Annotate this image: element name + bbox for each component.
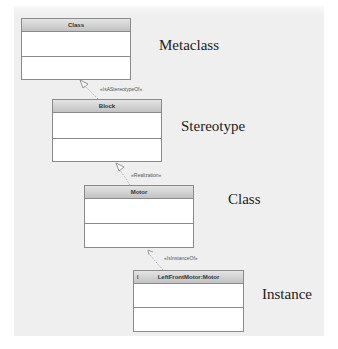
- hollow-arrowhead-icon: [116, 163, 124, 171]
- instance-name: LeftFrontMotor:Motor: [158, 274, 220, 280]
- attributes-compartment: [22, 32, 130, 57]
- uml-block-block[interactable]: Block: [52, 99, 162, 162]
- hollow-arrowhead-icon: [80, 80, 88, 88]
- uml-instance-left-front-motor[interactable]: I LeftFrontMotor:Motor: [133, 270, 244, 332]
- block-name: Class: [68, 22, 84, 28]
- operations-compartment: [134, 308, 243, 332]
- uml-block-motor[interactable]: Motor: [84, 185, 194, 248]
- attributes-compartment: [85, 199, 193, 224]
- operations-compartment: [85, 224, 193, 248]
- block-name: Block: [99, 103, 115, 109]
- connector-stereotype-of: [80, 80, 98, 99]
- attributes-compartment: [53, 113, 161, 139]
- operations-compartment: [22, 57, 130, 80]
- attributes-compartment: [134, 284, 243, 308]
- uml-block-class[interactable]: Class: [21, 18, 131, 80]
- level-label-metaclass: Metaclass: [159, 37, 219, 54]
- block-name: Motor: [131, 189, 148, 195]
- instance-kind-marker: I: [137, 271, 138, 283]
- open-arrowhead-icon: [148, 250, 153, 255]
- connector-realization: [116, 163, 130, 185]
- level-label-class: Class: [228, 191, 261, 208]
- operations-compartment: [53, 139, 161, 162]
- relationship-label-realization: «Realization»: [131, 172, 161, 178]
- instance-header: I LeftFrontMotor:Motor: [134, 271, 243, 284]
- level-label-instance: Instance: [262, 286, 312, 303]
- block-header: Block: [53, 100, 161, 113]
- level-label-stereotype: Stereotype: [181, 118, 245, 135]
- block-header: Motor: [85, 186, 193, 199]
- block-header: Class: [22, 19, 130, 32]
- connector-instance-of: [148, 250, 163, 270]
- relationship-label-instance-of: «IsInstanceOf»: [164, 255, 198, 261]
- relationship-label-stereotype-of: «IsAStereotypeOf»: [100, 86, 142, 92]
